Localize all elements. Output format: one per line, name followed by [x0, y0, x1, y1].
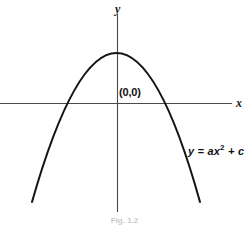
figure-caption: Fig. 1.2 — [0, 217, 249, 225]
parabola-curve — [32, 53, 200, 202]
x-axis-label: x — [236, 97, 242, 109]
curve-equation-label: y = ax2 + c — [188, 146, 244, 157]
equation-lhs: y = ax — [188, 145, 220, 157]
y-axis-label: y — [115, 3, 120, 15]
parabola-plot-svg — [0, 0, 249, 226]
equation-rhs: + c — [225, 145, 244, 157]
origin-point-label: (0,0) — [119, 87, 141, 98]
parabola-figure: y x (0,0) y = ax2 + c Fig. 1.2 — [0, 0, 249, 226]
